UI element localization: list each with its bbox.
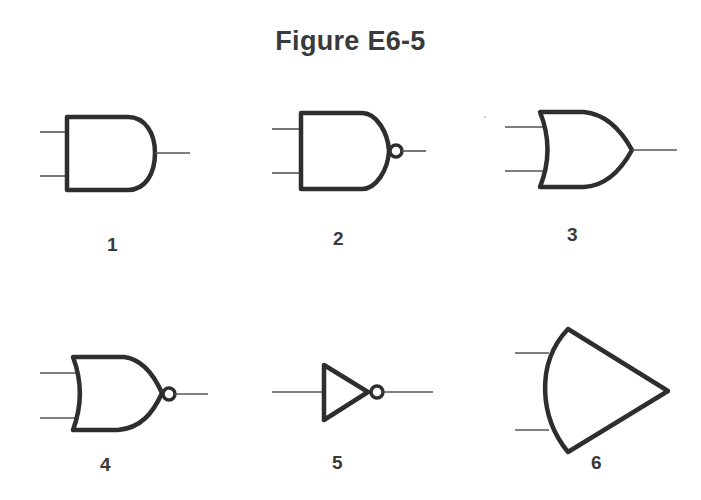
nand-gate-icon xyxy=(272,113,426,189)
and-gate-icon xyxy=(40,117,190,190)
gate1-body xyxy=(67,117,155,190)
gate-label-5: 5 xyxy=(332,452,343,474)
gate-label-3: 3 xyxy=(567,224,578,246)
gate-label-1: 1 xyxy=(107,234,118,256)
logic-gates-diagram xyxy=(0,0,701,500)
gate5-body xyxy=(324,365,368,420)
curved-triangle-gate-icon xyxy=(515,329,668,452)
gate2-inversion-bubble xyxy=(390,145,402,157)
gate-label-2: 2 xyxy=(333,228,344,250)
gate4-body xyxy=(73,357,162,430)
gate5-inversion-bubble xyxy=(371,386,383,398)
gate4-inversion-bubble xyxy=(163,388,175,400)
not-gate-icon xyxy=(272,365,433,420)
nor-gate-icon xyxy=(40,357,208,430)
gate6-body xyxy=(545,329,668,452)
or-gate-icon xyxy=(505,112,677,187)
gate2-body xyxy=(301,113,389,189)
gate-label-4: 4 xyxy=(100,454,111,476)
gate-label-6: 6 xyxy=(591,452,602,474)
gate3-body xyxy=(540,112,632,187)
